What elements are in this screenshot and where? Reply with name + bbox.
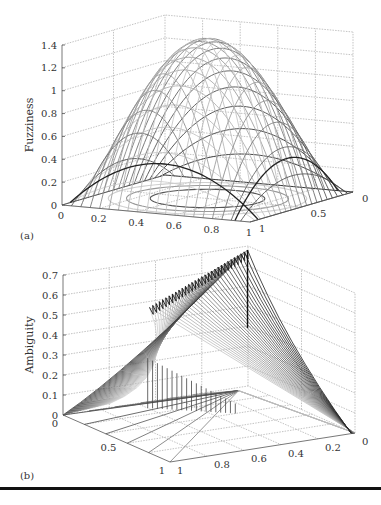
y-tick-label: 0.5 <box>311 208 327 219</box>
y-tick-label: 0.2 <box>325 442 341 453</box>
x-tick-label: 1 <box>159 465 165 476</box>
gridline-floor <box>137 403 244 450</box>
y-tick-label: 0.6 <box>251 453 267 464</box>
z-tick-label: 0.3 <box>42 350 58 361</box>
z-tick-label: 0.4 <box>42 330 58 341</box>
gridline-z <box>62 15 353 45</box>
x-tick-label: 0.4 <box>128 217 144 228</box>
figure: 00.20.40.60.811.21.400.20.40.60.8110.50F… <box>0 0 381 505</box>
bottom-separator-line <box>0 487 381 490</box>
panel-label-b: (b) <box>20 470 34 481</box>
mesh-line-y <box>71 159 174 206</box>
x-tick-label: 0 <box>52 418 58 429</box>
z-tick-label: 0.5 <box>42 310 58 321</box>
z-tick-label: 0.4 <box>41 154 57 165</box>
x-axis <box>63 415 170 462</box>
z-axis-label: Fuzziness <box>23 97 36 152</box>
z-tick-label: 0.8 <box>41 108 57 119</box>
y-tick-label: 0.4 <box>288 448 304 459</box>
z-tick-label: 0.2 <box>42 370 58 381</box>
z-tick-label: 0.6 <box>42 290 58 301</box>
gridline-z <box>63 286 355 333</box>
panel-label-a: (a) <box>20 230 34 241</box>
z-axis-label: Ambiguity <box>23 316 36 375</box>
x-tick-label: 1 <box>246 227 252 238</box>
z-tick-label: 0.2 <box>41 177 57 188</box>
gridline-floor <box>127 414 312 443</box>
gridline-floor <box>106 405 291 434</box>
x-tick-label: 0.6 <box>166 220 182 231</box>
y-tick-label: 0 <box>362 436 368 447</box>
z-tick-label: 0.7 <box>42 270 58 281</box>
y-tick-label: 1 <box>177 465 183 476</box>
x-tick-label: 0 <box>58 210 64 221</box>
mesh-line-y <box>203 82 306 217</box>
x-tick-label: 0.2 <box>91 213 107 224</box>
gridline-z <box>63 266 355 313</box>
ambiguity-plot: 00.10.20.30.40.50.60.700.5110.80.60.40.2… <box>20 246 368 481</box>
mesh-line-y <box>100 90 203 208</box>
x-tick-label: 0.5 <box>101 442 117 453</box>
z-tick-label: 0.1 <box>42 390 58 401</box>
z-tick-label: 1.2 <box>41 62 57 73</box>
z-tick-label: 1.4 <box>41 40 57 51</box>
fuzziness-plot: 00.20.40.60.811.21.400.20.40.60.8110.50F… <box>20 15 368 241</box>
gridline-floor <box>174 398 281 445</box>
gridline-z <box>62 84 353 114</box>
gridline-floor <box>149 424 334 453</box>
y-tick-label: 0 <box>362 193 368 204</box>
z-tick-label: 1 <box>51 85 57 96</box>
x-tick-label: 0.8 <box>203 224 219 235</box>
y-tick-label: 1 <box>259 223 265 234</box>
z-tick-label: 0 <box>51 200 57 211</box>
y-tick-label: 0.8 <box>214 459 230 470</box>
y-axis <box>250 192 353 222</box>
z-tick-label: 0.6 <box>41 131 57 142</box>
